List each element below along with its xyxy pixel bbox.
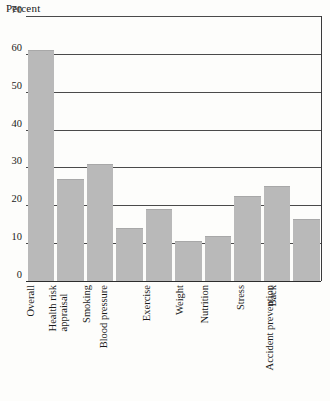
- bar-slot: [233, 16, 263, 281]
- bar: [28, 50, 55, 281]
- x-label-slot: Exercise: [144, 283, 174, 401]
- bar-slot: [174, 16, 204, 281]
- bar-chart: Percent 010203040506070 OverallHealth ri…: [0, 0, 330, 401]
- x-tick-label: Stress: [235, 285, 246, 310]
- x-tick-label: Weight: [174, 285, 185, 315]
- y-tick-label: 10: [0, 232, 22, 242]
- bar-slot: [203, 16, 233, 281]
- y-tick-label: 50: [0, 81, 22, 91]
- x-tick-label: Smoking: [81, 285, 92, 323]
- x-tick-label: Nutrition: [199, 285, 210, 324]
- x-label-slot: Stress: [233, 283, 263, 401]
- bar-slot: [56, 16, 86, 281]
- y-tick-label: 40: [0, 119, 22, 129]
- x-axis-labels: OverallHealth riskappraisalSmokingBlood …: [26, 283, 322, 401]
- x-tick-label: Accident prevention: [264, 285, 275, 370]
- y-tick-label: 30: [0, 156, 22, 166]
- bar-slot: [262, 16, 292, 281]
- plot-wrapper: 010203040506070: [26, 16, 322, 281]
- bar-slot: [292, 16, 322, 281]
- bar-slot: [144, 16, 174, 281]
- bar-slot: [115, 16, 145, 281]
- bar: [146, 209, 173, 281]
- plot-area: [26, 16, 322, 281]
- bar: [264, 186, 291, 281]
- bar: [57, 179, 84, 281]
- y-tick-label: 60: [0, 43, 22, 53]
- bar-slot: [85, 16, 115, 281]
- bar: [116, 228, 143, 281]
- x-label-slot: Nutrition: [204, 283, 234, 401]
- x-tick-label: Health riskappraisal: [47, 285, 69, 331]
- x-label-slot: Accident prevention: [292, 283, 322, 401]
- bar: [87, 164, 114, 281]
- bar: [234, 196, 261, 281]
- bar-series: [26, 16, 321, 281]
- x-label-slot: Blood pressure: [115, 283, 145, 401]
- x-tick-label: Overall: [25, 285, 36, 317]
- bar: [175, 241, 202, 281]
- y-tick-label: 70: [0, 5, 22, 15]
- x-tick-label: Exercise: [141, 285, 152, 321]
- bar-slot: [26, 16, 56, 281]
- y-tick-label: 0: [0, 270, 22, 280]
- gridline: [26, 281, 321, 282]
- y-tick-label: 20: [0, 194, 22, 204]
- x-tick-label: Blood pressure: [98, 285, 109, 348]
- bar: [205, 236, 232, 281]
- bar: [293, 219, 320, 281]
